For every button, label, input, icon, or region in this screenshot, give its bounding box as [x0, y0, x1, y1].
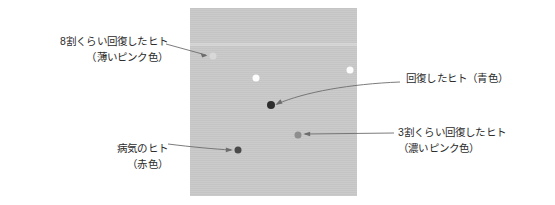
- annotation-sick-line2: （赤色）: [78, 156, 168, 172]
- dot-blue: [267, 101, 275, 109]
- annotation-sick: 病気のヒト （赤色）: [78, 140, 168, 172]
- simulation-figure: 8割くらい回復したヒト （薄いピンク色） 病気のヒト （赤色） 回復したヒト（青…: [0, 0, 555, 205]
- dot-white-right: [347, 67, 354, 74]
- dot-white-center: [253, 75, 260, 82]
- dot-red: [235, 147, 242, 154]
- panel-light-band: [190, 43, 357, 46]
- annotation-recovered-line1: 回復したヒト（青色）: [406, 70, 508, 86]
- annotation-deep-pink-line2: （濃いピンク色）: [398, 140, 506, 156]
- annotation-deep-pink-line1: 3割くらい回復したヒト: [398, 124, 506, 140]
- annotation-sick-line1: 病気のヒト: [78, 140, 168, 156]
- simulation-panel: [190, 8, 357, 196]
- annotation-pale-pink: 8割くらい回復したヒト （薄いピンク色）: [18, 33, 168, 65]
- dot-pale-pink: [210, 53, 217, 60]
- annotation-pale-pink-line2: （薄いピンク色）: [18, 49, 168, 65]
- annotation-recovered: 回復したヒト（青色）: [406, 70, 508, 86]
- dot-deep-pink: [295, 132, 302, 139]
- annotation-deep-pink: 3割くらい回復したヒト （濃いピンク色）: [398, 124, 506, 156]
- annotation-pale-pink-line1: 8割くらい回復したヒト: [18, 33, 168, 49]
